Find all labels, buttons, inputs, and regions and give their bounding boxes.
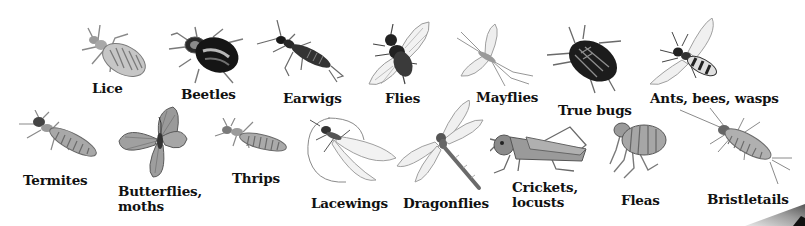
label-lacewings: Lacewings <box>311 196 388 211</box>
earwig-illustration <box>255 20 350 88</box>
label-earwigs: Earwigs <box>283 91 342 106</box>
mayfly-illustration <box>455 22 535 92</box>
thrips-illustration <box>213 118 293 168</box>
dragonfly-illustration <box>395 100 490 192</box>
fly-illustration <box>365 18 435 93</box>
label-true-bugs: True bugs <box>558 103 632 118</box>
label-dragonflies: Dragonflies <box>403 196 489 211</box>
flea-illustration <box>608 120 678 182</box>
label-ants-bees-wasps: Ants, bees, wasps <box>650 91 779 106</box>
label-thrips: Thrips <box>232 171 280 186</box>
louse-illustration <box>70 20 160 82</box>
bristletail-illustration <box>680 108 795 190</box>
label-beetles: Beetles <box>181 87 236 102</box>
page-corner-shadow <box>735 196 805 226</box>
label-lice: Lice <box>92 81 123 96</box>
wasp-illustration <box>648 18 728 88</box>
butterfly-illustration <box>115 105 200 180</box>
beetle-illustration <box>165 25 255 90</box>
label-fleas: Fleas <box>621 193 660 208</box>
label-butterflies-moths: Butterflies, moths <box>118 184 202 214</box>
termite-illustration <box>15 110 105 170</box>
lacewing-illustration <box>300 112 400 194</box>
insect-orders-figure: Lice Beetles Earwigs Flies Mayflies True… <box>0 0 805 226</box>
true-bug-illustration <box>545 25 635 100</box>
cricket-illustration <box>490 125 595 177</box>
label-mayflies: Mayflies <box>476 90 538 105</box>
label-termites: Termites <box>23 173 87 188</box>
label-crickets-locusts: Crickets, locusts <box>512 180 578 210</box>
label-flies: Flies <box>385 91 420 106</box>
